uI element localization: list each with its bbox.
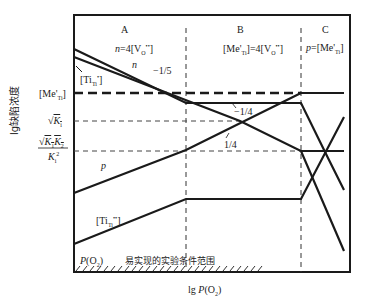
y-tick-sqrtki: √Ki (48, 116, 62, 128)
ti-upper-leader (76, 66, 82, 72)
y-tick-ratio-num: √K1K2 (39, 137, 64, 149)
slope-leader-b-p (226, 133, 229, 138)
bottom-note-po2: P(O2) (80, 256, 103, 268)
y-axis-label: lg缺陷浓度 (6, 86, 21, 135)
y-tick-me: [Me'Ti] (39, 89, 66, 101)
slope-a-n: −1/5 (153, 66, 171, 76)
region-b-label: B (237, 25, 244, 35)
region-c-condition: p=[Me'Ti] (306, 43, 344, 55)
region-a-condition: n=4[VO••] (115, 43, 153, 56)
region-a-label: A (121, 25, 128, 35)
region-c-label: C (322, 25, 329, 35)
slope-b-p: 1/4 (224, 140, 237, 150)
region-b-condition: [Me'Ti]=4[VO••] (223, 43, 283, 56)
p-curve (74, 93, 301, 193)
y-tick-ratio-den: Ki2 (48, 151, 59, 164)
x-axis-label: lg P(O2) (188, 285, 221, 297)
n-curve-label: n (132, 60, 137, 70)
ti-upper-label: [TiTi•] (80, 74, 102, 87)
bottom-note: 易实现的实验条件范围 (125, 257, 215, 266)
slope-b-n: −1/4 (234, 107, 252, 117)
p-curve-label: p (101, 161, 106, 171)
ti-upper-curve (74, 49, 344, 190)
ti-lower-label: [TiTi••] (96, 215, 121, 228)
hatch-marks (76, 266, 262, 271)
